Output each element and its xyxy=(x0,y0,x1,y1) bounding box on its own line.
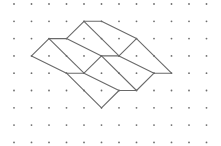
grid-dot xyxy=(13,124,15,126)
grid-dot xyxy=(101,72,103,74)
grid-dot xyxy=(83,38,85,40)
grid-dot xyxy=(171,20,173,22)
grid-dot xyxy=(83,124,85,126)
grid-dot xyxy=(153,90,155,92)
grid-dot xyxy=(13,38,15,40)
grid-dot xyxy=(66,20,68,22)
grid-dot xyxy=(48,20,50,22)
grid-dot xyxy=(136,72,138,74)
grid-dot xyxy=(188,124,190,126)
grid-dot xyxy=(171,38,173,40)
dot-grid-diagram xyxy=(0,0,221,146)
grid-dot xyxy=(13,3,15,5)
grid-dot xyxy=(13,107,15,109)
figure-edge xyxy=(67,21,85,38)
figure-edge xyxy=(84,56,102,73)
figure-edge xyxy=(32,39,50,56)
figure-edge xyxy=(102,21,137,38)
grid-dot xyxy=(136,142,138,144)
grid-dot xyxy=(13,72,15,74)
grid-dot xyxy=(171,107,173,109)
grid-dot xyxy=(136,124,138,126)
grid-dot xyxy=(13,20,15,22)
grid-dot xyxy=(13,142,15,144)
grid-dot xyxy=(118,38,120,40)
grid-dot xyxy=(206,107,208,109)
grid-dot xyxy=(153,107,155,109)
grid-dot xyxy=(48,55,50,57)
grid-dot xyxy=(101,142,103,144)
grid-dot xyxy=(66,124,68,126)
grid-dot xyxy=(206,90,208,92)
grid-dot xyxy=(48,90,50,92)
grid-dot xyxy=(188,142,190,144)
figure-edge xyxy=(102,56,137,91)
grid-dot xyxy=(153,124,155,126)
grid-dot xyxy=(118,3,120,5)
figure-edge xyxy=(32,56,67,73)
grid-dot xyxy=(171,124,173,126)
figure-edge xyxy=(137,39,172,74)
grid-dot xyxy=(206,142,208,144)
figure-edge xyxy=(119,56,154,73)
grid-dot xyxy=(153,20,155,22)
figure-edge xyxy=(49,39,84,74)
grid-dot xyxy=(206,72,208,74)
grid-dot xyxy=(171,55,173,57)
grid-dot xyxy=(13,55,15,57)
grid-dot xyxy=(101,3,103,5)
grid-dot xyxy=(66,3,68,5)
figure-edge xyxy=(67,73,102,108)
grid-dot xyxy=(136,107,138,109)
grid-dot xyxy=(31,107,33,109)
grid-dot xyxy=(31,90,33,92)
grid-dot xyxy=(31,72,33,74)
grid-dot xyxy=(153,142,155,144)
grid-dot xyxy=(171,3,173,5)
grid-dot xyxy=(31,38,33,40)
grid-dot xyxy=(83,107,85,109)
grid-dot xyxy=(48,72,50,74)
grid-dot xyxy=(188,90,190,92)
figure-edge xyxy=(137,73,155,90)
grid-dot xyxy=(188,55,190,57)
figure-edge xyxy=(102,91,120,108)
figure-edge xyxy=(84,21,119,56)
grid-dots xyxy=(13,3,207,143)
grid-dot xyxy=(13,90,15,92)
grid-dot xyxy=(118,142,120,144)
grid-dot xyxy=(31,20,33,22)
grid-dot xyxy=(101,90,103,92)
grid-dot xyxy=(188,3,190,5)
grid-dot xyxy=(48,3,50,5)
grid-dot xyxy=(83,3,85,5)
grid-dot xyxy=(83,55,85,57)
grid-dot xyxy=(118,20,120,22)
grid-dot xyxy=(153,38,155,40)
figure-edges xyxy=(32,21,172,108)
grid-dot xyxy=(206,55,208,57)
grid-dot xyxy=(66,90,68,92)
grid-dot xyxy=(171,142,173,144)
grid-dot xyxy=(153,3,155,5)
grid-dot xyxy=(48,142,50,144)
grid-dot xyxy=(206,38,208,40)
figure-edge xyxy=(84,73,119,90)
grid-dot xyxy=(188,107,190,109)
grid-dot xyxy=(136,3,138,5)
grid-dot xyxy=(206,20,208,22)
grid-dot xyxy=(136,20,138,22)
grid-dot xyxy=(136,55,138,57)
grid-dot xyxy=(188,20,190,22)
grid-dot xyxy=(206,3,208,5)
grid-dot xyxy=(66,107,68,109)
grid-dot xyxy=(48,124,50,126)
grid-dot xyxy=(206,124,208,126)
grid-dot xyxy=(118,107,120,109)
grid-dot xyxy=(31,124,33,126)
grid-dot xyxy=(48,107,50,109)
grid-dot xyxy=(171,90,173,92)
grid-dot xyxy=(66,142,68,144)
grid-dot xyxy=(118,124,120,126)
figure-edge xyxy=(67,39,102,56)
